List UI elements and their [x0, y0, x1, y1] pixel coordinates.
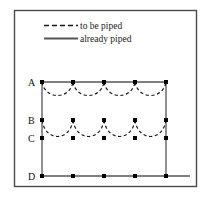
node-A-1: [40, 80, 44, 84]
node-D-2: [71, 174, 75, 178]
node-C-1: [40, 136, 44, 140]
piping-network-diagram: to be piped already piped: [0, 0, 212, 198]
node-A-3: [102, 80, 106, 84]
row-label-D: D: [28, 171, 35, 182]
node-C-5: [164, 136, 168, 140]
node-C-4: [133, 136, 137, 140]
legend-label-to-be-piped: to be piped: [80, 21, 122, 31]
node-B-1: [40, 118, 44, 122]
node-A-2: [71, 80, 75, 84]
row-label-A: A: [28, 77, 36, 88]
row-label-C: C: [28, 133, 35, 144]
node-C-3: [102, 136, 106, 140]
node-D-5: [164, 174, 168, 178]
node-B-2: [71, 118, 75, 122]
node-B-4: [133, 118, 137, 122]
node-B-5: [164, 118, 168, 122]
legend-label-already-piped: already piped: [80, 34, 132, 44]
node-A-5: [164, 80, 168, 84]
figure-container: to be piped already piped: [0, 0, 212, 198]
node-D-1: [40, 174, 44, 178]
row-label-B: B: [28, 115, 35, 126]
node-A-4: [133, 80, 137, 84]
node-C-2: [71, 136, 75, 140]
node-D-3: [102, 174, 106, 178]
node-D-4: [133, 174, 137, 178]
node-B-3: [102, 118, 106, 122]
